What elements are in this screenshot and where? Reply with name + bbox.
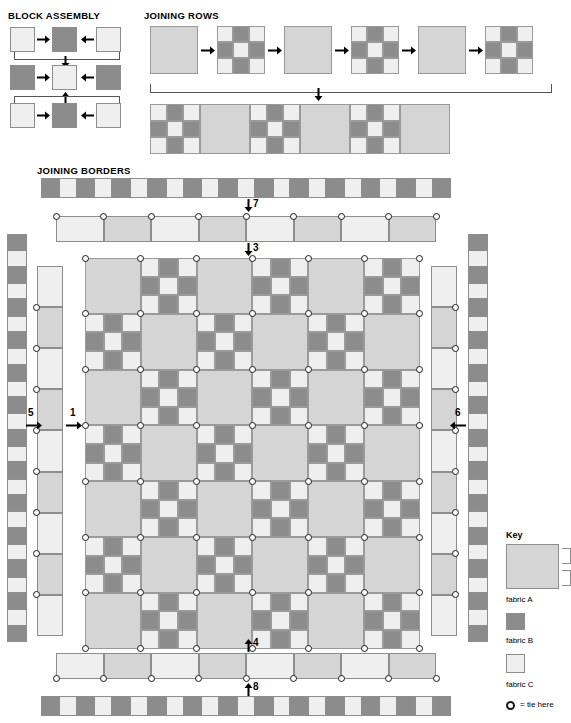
nine-patch-cell <box>252 593 271 612</box>
border-checker-right <box>468 234 488 642</box>
nine-patch-cell <box>141 593 160 612</box>
nine-patch-cell <box>271 593 290 612</box>
step-number-8: 8 <box>253 681 259 692</box>
quilt-block-plain <box>308 593 364 649</box>
nine-patch-cell <box>104 351 123 370</box>
nine-patch-cell <box>308 444 327 463</box>
inner-border-square <box>37 307 63 348</box>
nine-patch-cell <box>401 611 420 630</box>
nine-patch-cell <box>267 121 284 138</box>
quilt-block-ninepatch <box>252 370 308 426</box>
tie-point <box>53 213 60 220</box>
quilt-block-ninepatch <box>197 425 253 481</box>
nine-patch-cell <box>364 388 383 407</box>
tie-point <box>338 213 345 220</box>
tie-point <box>452 591 459 598</box>
step-number-5: 5 <box>28 407 34 418</box>
nine-patch-cell <box>345 425 364 444</box>
checker-square <box>7 332 27 348</box>
joined-row-block-ninepatch <box>250 104 300 154</box>
quilt-block-ninepatch <box>364 370 420 426</box>
tie-point <box>305 478 312 485</box>
tie-point <box>82 255 89 262</box>
tie-point <box>433 213 440 220</box>
tie-point <box>452 345 459 352</box>
tie-point <box>243 675 250 682</box>
joining-rows-block-ninepatch <box>217 26 265 74</box>
inner-border-square <box>37 595 63 636</box>
nine-patch-cell <box>383 630 402 649</box>
nine-patch-cell <box>501 26 517 42</box>
checker-square <box>397 696 415 716</box>
checker-square <box>7 267 27 283</box>
nine-patch-cell <box>364 500 383 519</box>
nine-patch-cell <box>327 463 346 482</box>
checker-square <box>468 381 488 397</box>
checker-square <box>468 430 488 446</box>
tie-point <box>193 534 200 541</box>
tie-point <box>385 213 392 220</box>
inner-border-square <box>199 653 247 679</box>
nine-patch-cell <box>271 370 290 389</box>
nine-patch-cell <box>159 370 178 389</box>
checker-square <box>7 462 27 478</box>
inner-border-square <box>151 653 199 679</box>
quilt-block-ninepatch <box>364 258 420 314</box>
nine-patch-cell <box>383 295 402 314</box>
tie-point <box>82 645 89 652</box>
nine-patch-cell <box>141 630 160 649</box>
tie-point <box>193 422 200 429</box>
checker-square <box>7 365 27 381</box>
nine-patch-cell <box>150 104 167 121</box>
nine-patch-cell <box>252 481 271 500</box>
nine-patch-cell <box>290 277 309 296</box>
nine-patch-cell <box>367 104 384 121</box>
nine-patch-cell <box>252 258 271 277</box>
checker-square <box>379 696 397 716</box>
nine-patch-cell <box>271 518 290 537</box>
nine-patch-cell <box>104 425 123 444</box>
quilt-block-ninepatch <box>85 314 141 370</box>
tie-point <box>193 645 200 652</box>
checker-square <box>7 397 27 413</box>
quilt-block-plain <box>141 314 197 370</box>
arrow-right-icon <box>335 45 350 56</box>
nine-patch-cell <box>141 518 160 537</box>
checker-square <box>7 381 27 397</box>
tie-point <box>53 675 60 682</box>
arrow-left-icon <box>80 110 94 121</box>
checker-square <box>7 234 27 250</box>
tie-point <box>452 550 459 557</box>
checker-square <box>468 283 488 299</box>
inner-border-square <box>199 216 247 242</box>
inner-border-square <box>431 430 457 471</box>
quilt-block-ninepatch <box>85 425 141 481</box>
tie-point <box>361 310 368 317</box>
checker-square <box>468 626 488 642</box>
nine-patch-cell <box>383 611 402 630</box>
tie-point <box>82 422 89 429</box>
tie-point <box>416 255 423 262</box>
tie-point <box>82 478 89 485</box>
tie-point <box>100 213 107 220</box>
checker-square <box>219 178 237 198</box>
inner-border-square <box>56 216 104 242</box>
checker-square <box>94 178 112 198</box>
tie-point <box>416 645 423 652</box>
nine-patch-cell <box>327 351 346 370</box>
tie-point <box>416 310 423 317</box>
checker-square <box>77 696 95 716</box>
quilt-block-ninepatch <box>197 314 253 370</box>
tie-point <box>249 534 256 541</box>
checker-square <box>7 593 27 609</box>
checker-square <box>468 609 488 625</box>
nine-patch-cell <box>104 537 123 556</box>
joining-rows-block-ninepatch <box>351 26 399 74</box>
tie-point <box>305 645 312 652</box>
key-title: Key <box>506 530 523 540</box>
step-number-6: 6 <box>455 407 461 418</box>
nine-patch-cell <box>271 258 290 277</box>
nine-patch-cell <box>159 388 178 407</box>
checker-square <box>148 178 166 198</box>
checker-square <box>290 696 308 716</box>
